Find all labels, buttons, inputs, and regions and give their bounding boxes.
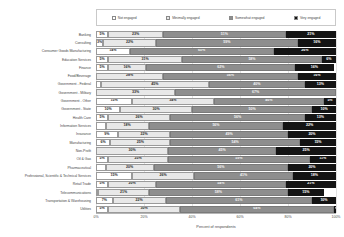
bar-row[interactable]: 10%30%50%10% [96, 106, 336, 113]
bar-row[interactable]: 45%40%13% [96, 81, 336, 88]
bar-segment[interactable]: 59% [168, 156, 310, 163]
bar-segment[interactable]: 30% [108, 206, 180, 213]
bar-row[interactable]: 5%26%56%13% [96, 114, 336, 121]
bar-segment[interactable]: 22% [283, 122, 336, 129]
bar-row[interactable]: 18%56%22% [96, 122, 336, 129]
bar-segment[interactable]: 10% [96, 106, 120, 113]
bar-segment[interactable]: 13% [305, 81, 336, 88]
bar-segment[interactable]: 41% [194, 172, 292, 179]
bar-segment[interactable]: 18% [293, 172, 336, 179]
bar-segment[interactable]: 15% [96, 172, 132, 179]
bar-segment[interactable]: 6% [322, 56, 336, 63]
bar-segment[interactable]: 26% [108, 114, 170, 121]
bar-segment[interactable]: 5% [96, 64, 108, 71]
bar-row[interactable]: 7%22%61%10% [96, 197, 336, 204]
bar-segment[interactable]: 22% [103, 39, 156, 46]
bar-segment[interactable]: 21% [98, 189, 148, 196]
bar-segment[interactable]: 54% [156, 181, 286, 188]
bar-segment[interactable]: 15% [288, 189, 324, 196]
bar-segment[interactable]: 62% [146, 64, 295, 71]
bar-segment[interactable]: 45% [101, 81, 209, 88]
bar-segment[interactable]: 40% [209, 81, 305, 88]
bar-segment[interactable]: 5% [96, 181, 108, 188]
bar-row[interactable]: 5%16%62%16% [96, 64, 336, 71]
bar-segment[interactable] [96, 164, 106, 171]
bar-segment[interactable]: 64% [180, 206, 334, 213]
bar-segment[interactable]: 54% [170, 139, 300, 146]
bar-segment[interactable]: 26% [132, 172, 194, 179]
bar-row[interactable]: 3%22%59%16% [96, 39, 336, 46]
bar-row[interactable]: 5%25%59%11% [96, 156, 336, 163]
bar-segment[interactable]: 34% [132, 98, 214, 105]
bar-segment[interactable]: 67% [175, 89, 336, 96]
bar-segment[interactable]: 51% [163, 31, 285, 38]
bar-segment[interactable]: 25% [276, 147, 336, 154]
bar-segment[interactable]: 50% [192, 106, 312, 113]
bar-segment[interactable]: 58% [149, 189, 288, 196]
legend-item[interactable]: Minimally engaged [166, 16, 199, 20]
bar-segment[interactable]: 5% [96, 156, 108, 163]
legend-item[interactable]: Not engaged [112, 16, 137, 20]
bar-segment[interactable]: 5% [96, 206, 108, 213]
bar-segment[interactable]: 18% [106, 122, 149, 129]
bar-segment[interactable]: 11% [310, 156, 336, 163]
bar-segment[interactable]: 13% [305, 114, 336, 121]
bar-segment[interactable]: 15% [96, 98, 132, 105]
bar-segment[interactable]: 28% [96, 73, 163, 80]
bar-segment[interactable]: 22% [113, 197, 166, 204]
bar-segment[interactable]: 10% [312, 197, 336, 204]
bar-segment[interactable]: 20% [288, 164, 336, 171]
bar-row[interactable]: 9%22%49%20% [96, 131, 336, 138]
legend-item[interactable]: Very engaged [294, 16, 320, 20]
bar-row[interactable]: 5%20%54%21% [96, 181, 336, 188]
bar-row[interactable]: 20%56%20% [96, 164, 336, 171]
bar-segment[interactable]: 5% [96, 56, 108, 63]
bar-segment[interactable]: 3% [96, 39, 103, 46]
legend-item[interactable]: Somewhat engaged [229, 16, 264, 20]
bar-segment[interactable] [96, 122, 106, 129]
bar-segment[interactable]: 16% [295, 64, 333, 71]
bar-row[interactable]: 33%67% [96, 89, 336, 96]
bar-segment[interactable]: 25% [110, 139, 170, 146]
bar-segment[interactable]: 25% [108, 156, 168, 163]
bar-segment[interactable]: 56% [149, 122, 283, 129]
bar-segment[interactable]: 15% [300, 139, 336, 146]
bar-segment[interactable]: 5% [324, 98, 336, 105]
bar-segment[interactable]: 59% [156, 39, 298, 46]
bar-segment[interactable]: 1% [334, 206, 336, 213]
bar-segment[interactable]: 5% [96, 31, 108, 38]
bar-row[interactable]: 28%56%16% [96, 73, 336, 80]
bar-row[interactable]: 6%25%54%15% [96, 139, 336, 146]
bar-segment[interactable]: 10% [312, 106, 336, 113]
bar-segment[interactable]: 6% [96, 139, 110, 146]
bar-segment[interactable]: 5% [96, 114, 108, 121]
bar-row[interactable]: 15%34%46%5% [96, 98, 336, 105]
bar-segment[interactable]: 60% [130, 48, 274, 55]
bar-segment[interactable]: 56% [163, 73, 297, 80]
bar-segment[interactable]: 16% [108, 64, 146, 71]
bar-segment[interactable]: 30% [96, 147, 168, 154]
bar-segment[interactable]: 31% [108, 56, 182, 63]
bar-segment[interactable]: 9% [96, 131, 118, 138]
bar-segment[interactable]: 23% [108, 31, 163, 38]
bar-row[interactable]: 21%58%15% [96, 189, 336, 196]
bar-segment[interactable]: 7% [96, 197, 113, 204]
bar-segment[interactable]: 20% [106, 164, 154, 171]
bar-segment[interactable]: 58% [182, 56, 321, 63]
bar-segment[interactable]: 30% [120, 106, 192, 113]
bar-segment[interactable]: 56% [170, 114, 304, 121]
bar-segment[interactable]: 49% [170, 131, 288, 138]
bar-segment[interactable]: 16% [298, 39, 336, 46]
bar-row[interactable]: 5%23%51%21% [96, 31, 336, 38]
bar-segment[interactable]: 14% [96, 48, 130, 55]
bar-segment[interactable]: 20% [108, 181, 156, 188]
bar-segment[interactable]: 21% [286, 181, 336, 188]
bar-row[interactable]: 14%60%26% [96, 48, 336, 55]
bar-row[interactable]: 5%31%58%6% [96, 56, 336, 63]
bar-segment[interactable]: 61% [166, 197, 312, 204]
bar-row[interactable]: 15%26%41%18% [96, 172, 336, 179]
bar-segment[interactable]: 20% [288, 131, 336, 138]
bar-segment[interactable]: 21% [286, 31, 336, 38]
bar-segment[interactable]: 33% [96, 89, 175, 96]
bar-row[interactable]: 30%45%25% [96, 147, 336, 154]
